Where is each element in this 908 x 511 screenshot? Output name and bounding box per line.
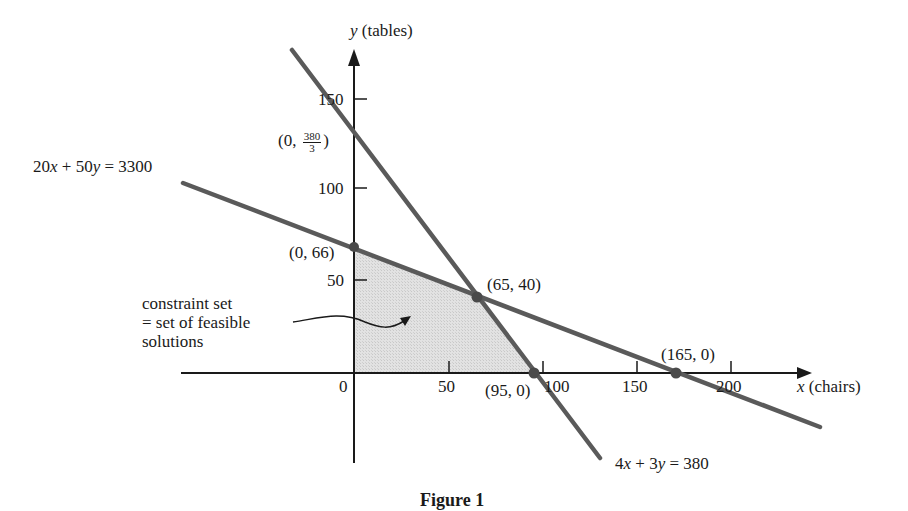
eq2-coef-y: + 3 <box>631 454 658 473</box>
eq1-rhs: = 3300 <box>100 157 152 176</box>
x-axis-var: x <box>797 377 805 396</box>
y-axis-unit: (tables) <box>362 21 413 40</box>
y-axis-arrow-icon <box>348 49 360 66</box>
point-label-y-intercept: (0, 3803) <box>278 131 329 154</box>
point-65-40 <box>472 292 483 303</box>
eq2-var-x: x <box>624 454 632 473</box>
point-label-0-66: (0, 66) <box>289 244 334 261</box>
y-intercept-prefix: (0, <box>278 131 301 150</box>
feasible-region-annotation: constraint set = set of feasible solutio… <box>142 294 250 351</box>
point-label-95-0: (95, 0) <box>485 382 530 399</box>
origin-label: 0 <box>339 378 348 395</box>
equation-label-4x-3y-380: 4x + 3y = 380 <box>615 455 709 472</box>
point-0-66 <box>349 242 359 252</box>
eq1-coef-y: + 50 <box>58 157 93 176</box>
annotation-line-2: = set of feasible <box>142 313 250 332</box>
y-tick-label-50: 50 <box>327 272 344 289</box>
x-tick-label-50: 50 <box>438 378 455 395</box>
constraint-line-4x-3y-380 <box>292 50 600 458</box>
point-165-0 <box>671 368 682 379</box>
point-label-165-0: (165, 0) <box>661 346 715 363</box>
y-tick-label-150: 150 <box>318 91 344 108</box>
eq2-rhs: = 380 <box>665 454 709 473</box>
eq1-coef-x: 20 <box>33 157 50 176</box>
eq2-coef-x: 4 <box>615 454 624 473</box>
y-tick-label-100: 100 <box>318 180 344 197</box>
fraction-denominator: 3 <box>303 143 322 154</box>
fraction-380-3: 3803 <box>303 131 322 154</box>
x-tick-label-100: 100 <box>544 378 570 395</box>
x-tick-label-200: 200 <box>716 378 742 395</box>
y-axis-var: y <box>350 21 358 40</box>
x-tick-label-150: 150 <box>622 378 648 395</box>
eq1-var-x: x <box>50 157 58 176</box>
x-axis-label: x (chairs) <box>797 378 861 395</box>
point-label-65-40: (65, 40) <box>487 276 541 293</box>
x-axis-unit: (chairs) <box>809 377 861 396</box>
y-intercept-suffix: ) <box>323 131 329 150</box>
point-95-0 <box>529 368 540 379</box>
y-axis-label: y (tables) <box>350 22 413 39</box>
annotation-line-3: solutions <box>142 332 250 351</box>
figure-caption: Figure 1 <box>420 490 484 511</box>
equation-label-20x-50y-3300: 20x + 50y = 3300 <box>33 158 152 175</box>
feasible-region <box>354 247 534 373</box>
annotation-line-1: constraint set <box>142 294 250 313</box>
